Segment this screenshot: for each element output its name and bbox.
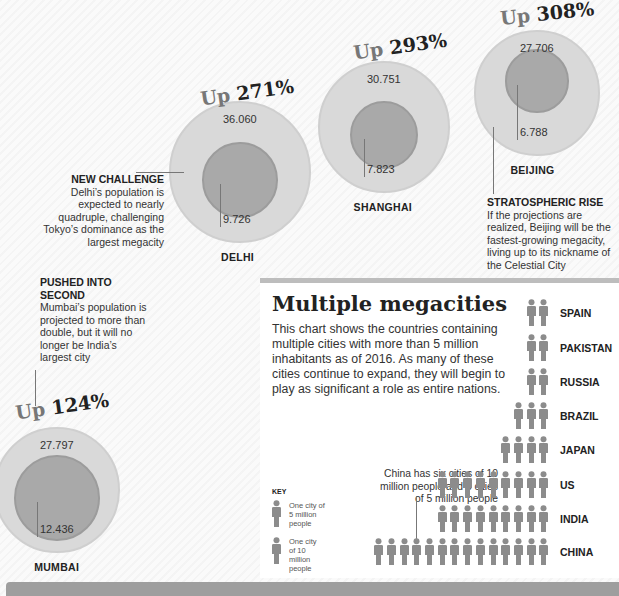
note-mumbai-leader bbox=[35, 370, 36, 406]
projected-value-beijing: 27.706 bbox=[520, 42, 554, 54]
person-icon-india bbox=[437, 505, 448, 533]
note-beijing: STRATOSPHERIC RISE If the projections ar… bbox=[487, 196, 619, 271]
person-icon-us bbox=[526, 471, 537, 499]
city-label-delhi: DELHI bbox=[221, 251, 254, 263]
person-icon-russia bbox=[526, 368, 537, 396]
key-title: KEY bbox=[272, 488, 286, 495]
person-icon-china bbox=[500, 538, 511, 566]
country-label-pakistan: PAKISTAN bbox=[560, 342, 612, 354]
person-icon-china bbox=[526, 538, 537, 566]
country-label-india: INDIA bbox=[560, 513, 589, 525]
person-icon-india bbox=[462, 505, 473, 533]
current-leader-shanghai bbox=[364, 139, 365, 177]
person-icon-india bbox=[475, 505, 486, 533]
person-icon-spain bbox=[538, 299, 549, 327]
key-small-label: One city of 5 million people bbox=[289, 501, 329, 528]
china-annotation-leader bbox=[416, 496, 417, 540]
person-icon-china bbox=[411, 538, 422, 566]
city-label-beijing: BEIJING bbox=[510, 164, 554, 176]
person-icon-us bbox=[500, 471, 511, 499]
person-icon-india bbox=[513, 505, 524, 533]
country-label-brazil: BRAZIL bbox=[560, 410, 599, 422]
note-beijing-leader bbox=[493, 127, 494, 194]
bottom-bar bbox=[6, 582, 619, 596]
growth-percent: 271% bbox=[235, 75, 295, 105]
country-label-us: US bbox=[560, 479, 575, 491]
current-value-beijing: 6.788 bbox=[520, 126, 548, 138]
person-icon-china bbox=[449, 538, 460, 566]
projected-value-mumbai: 27.797 bbox=[40, 439, 74, 451]
growth-percent: 308% bbox=[535, 0, 595, 25]
country-label-china: CHINA bbox=[560, 546, 593, 558]
note-delhi-leader bbox=[136, 172, 184, 173]
person-icon-us bbox=[437, 471, 448, 499]
person-icon-brazil bbox=[538, 402, 549, 430]
person-icon-us bbox=[462, 471, 473, 499]
note-delhi: NEW CHALLENGE Delhi’s population is expe… bbox=[38, 173, 164, 248]
person-icon-us bbox=[538, 471, 549, 499]
person-icon-india bbox=[538, 505, 549, 533]
person-icon-spain bbox=[526, 299, 537, 327]
note-delhi-title: NEW CHALLENGE bbox=[38, 173, 164, 186]
person-icon-china bbox=[386, 538, 397, 566]
person-icon-us bbox=[449, 471, 460, 499]
person-icon-us bbox=[475, 471, 486, 499]
person-icon-us bbox=[488, 471, 499, 499]
note-mumbai: PUSHED INTO SECOND Mumbai’s population i… bbox=[40, 276, 150, 364]
current-value-mumbai: 12.436 bbox=[40, 523, 74, 535]
bubble-current-beijing bbox=[505, 49, 568, 112]
person-icon-japan bbox=[513, 436, 524, 464]
current-value-shanghai: 7.823 bbox=[367, 163, 395, 175]
growth-percent: 293% bbox=[388, 29, 448, 59]
growth-up-word: Up bbox=[14, 397, 53, 424]
bubble-current-shanghai bbox=[350, 101, 418, 169]
panel-title: Multiple megacities bbox=[272, 291, 507, 316]
person-icon-china bbox=[475, 538, 486, 566]
person-icon-japan bbox=[500, 436, 511, 464]
note-delhi-text: Delhi’s population is expected to nearly… bbox=[43, 186, 164, 248]
person-icon-russia bbox=[538, 368, 549, 396]
person-icon-brazil bbox=[513, 402, 524, 430]
growth-label-beijing: Up 308% bbox=[499, 0, 595, 29]
note-beijing-title: STRATOSPHERIC RISE bbox=[487, 196, 619, 209]
person-icon-china bbox=[424, 538, 435, 566]
panel-description: This chart shows the countries containin… bbox=[272, 322, 508, 397]
person-icon-japan bbox=[538, 436, 549, 464]
person-icon-us bbox=[513, 471, 524, 499]
note-mumbai-title: PUSHED INTO SECOND bbox=[40, 276, 150, 301]
bubble-current-delhi bbox=[202, 142, 278, 218]
person-icon-india bbox=[500, 505, 511, 533]
person-icon-japan bbox=[526, 436, 537, 464]
country-label-japan: JAPAN bbox=[560, 444, 595, 456]
person-icon-china bbox=[462, 538, 473, 566]
note-mumbai-text: Mumbai’s population is projected to more… bbox=[40, 301, 147, 363]
growth-label-shanghai: Up 293% bbox=[352, 29, 448, 64]
growth-label-mumbai: Up 124% bbox=[14, 389, 110, 424]
person-icon-china bbox=[373, 538, 384, 566]
person-icon-india bbox=[488, 505, 499, 533]
person-icon-pakistan bbox=[526, 334, 537, 362]
projected-value-shanghai: 30.751 bbox=[367, 73, 401, 85]
person-icon-china bbox=[399, 538, 410, 566]
person-icon-india bbox=[526, 505, 537, 533]
person-icon-china bbox=[437, 538, 448, 566]
person-icon-pakistan bbox=[538, 334, 549, 362]
country-label-spain: SPAIN bbox=[560, 307, 591, 319]
key-small-figure-icon bbox=[271, 500, 282, 532]
person-icon-china bbox=[488, 538, 499, 566]
growth-up-word: Up bbox=[499, 3, 538, 29]
person-icon-brazil bbox=[526, 402, 537, 430]
country-label-russia: RUSSIA bbox=[560, 376, 600, 388]
city-label-mumbai: MUMBAI bbox=[34, 561, 79, 573]
key-large-figure-icon bbox=[271, 537, 282, 569]
projected-value-delhi: 36.060 bbox=[223, 113, 257, 125]
current-leader-mumbai bbox=[37, 502, 38, 537]
current-value-delhi: 9.726 bbox=[223, 213, 251, 225]
growth-up-word: Up bbox=[352, 37, 391, 64]
note-beijing-text: If the projections are realized, Beijing… bbox=[487, 209, 611, 271]
city-label-shanghai: SHANGHAI bbox=[354, 201, 412, 213]
person-icon-china bbox=[513, 538, 524, 566]
current-leader-delhi bbox=[220, 184, 221, 227]
growth-percent: 124% bbox=[50, 389, 110, 419]
person-icon-india bbox=[449, 505, 460, 533]
